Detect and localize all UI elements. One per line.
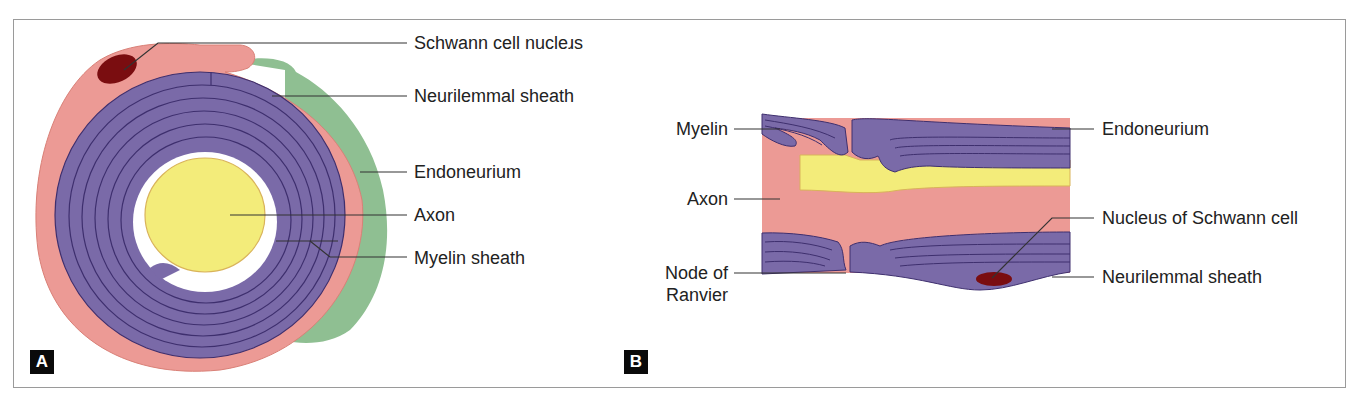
label-nucleus-of-schwann-cell: Nucleus of Schwann cell — [1102, 208, 1298, 228]
schwann-nucleus-b — [976, 272, 1012, 286]
panel-b-drawing — [734, 114, 1094, 290]
panel-tag-a: A — [30, 350, 54, 374]
label-node-of-ranvier-line2: Ranvier — [628, 285, 728, 305]
label-node-of-ranvier-line1: Node of — [628, 263, 728, 283]
label-endoneurium-a: Endoneurium — [414, 162, 521, 182]
label-axon-b: Axon — [628, 189, 728, 209]
label-endoneurium-b: Endoneurium — [1102, 119, 1209, 139]
label-neurilemmal-sheath-b: Neurilemmal sheath — [1102, 267, 1262, 287]
label-myelin-b: Myelin — [628, 119, 728, 139]
label-schwann-cell-nucleus: Schwann cell nucleɹs — [414, 33, 583, 53]
label-myelin-sheath-a: Myelin sheath — [414, 248, 525, 268]
panel-a-drawing — [36, 43, 407, 371]
label-axon-a: Axon — [414, 205, 455, 225]
label-neurilemmal-sheath-a: Neurilemmal sheath — [414, 86, 574, 106]
panel-tag-b: B — [624, 350, 648, 374]
